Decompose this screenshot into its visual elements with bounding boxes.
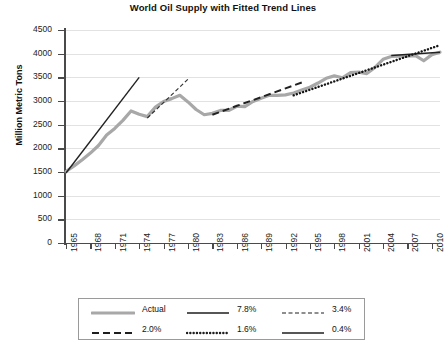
legend-label: 3.4% <box>332 304 351 314</box>
series-line-actual <box>66 52 440 171</box>
legend-item-16[interactable]: 1.6% <box>174 324 269 334</box>
y-tick-label: 0 <box>18 238 52 247</box>
chart-legend: Actual7.8%3.4%2.0%1.6%0.4% <box>78 298 365 340</box>
legend-swatch <box>91 304 135 314</box>
legend-item-04[interactable]: 0.4% <box>269 324 364 334</box>
legend-item-actual[interactable]: Actual <box>79 304 174 314</box>
y-tick-label: 3000 <box>18 96 52 105</box>
y-tick-label: 1500 <box>18 167 52 176</box>
legend-swatch-line <box>91 308 135 318</box>
legend-item-78[interactable]: 7.8% <box>174 304 269 314</box>
legend-swatch <box>281 304 325 314</box>
y-tick-label: 3500 <box>18 72 52 81</box>
chart-title: World Oil Supply with Fitted Trend Lines <box>0 2 446 13</box>
legend-swatch-line <box>281 308 325 318</box>
legend-row: Actual7.8%3.4% <box>79 299 364 319</box>
legend-label: 0.4% <box>332 324 351 334</box>
legend-swatch <box>186 304 230 314</box>
legend-swatch-line <box>186 328 230 338</box>
legend-label: 1.6% <box>237 324 256 334</box>
legend-swatch-line <box>281 328 325 338</box>
legend-swatch <box>91 324 135 334</box>
y-tick-label: 4500 <box>18 25 52 34</box>
legend-label: 7.8% <box>237 304 256 314</box>
legend-swatch <box>281 324 325 334</box>
chart-container: World Oil Supply with Fitted Trend Lines… <box>0 0 446 355</box>
y-tick-label: 2000 <box>18 143 52 152</box>
series-line-16 <box>294 45 440 95</box>
series-line-78 <box>66 77 139 173</box>
y-tick-label: 2500 <box>18 120 52 129</box>
series-layer <box>66 30 440 243</box>
legend-label: Actual <box>142 304 166 314</box>
legend-item-34[interactable]: 3.4% <box>269 304 364 314</box>
legend-swatch-line <box>186 308 230 318</box>
series-line-20 <box>212 83 301 115</box>
legend-swatch-line <box>91 328 135 338</box>
legend-item-20[interactable]: 2.0% <box>79 324 174 334</box>
legend-row: 2.0%1.6%0.4% <box>79 319 364 339</box>
y-tick-label: 1000 <box>18 191 52 200</box>
legend-swatch <box>186 324 230 334</box>
y-tick-label: 500 <box>18 214 52 223</box>
x-axis-line <box>64 243 440 244</box>
legend-label: 2.0% <box>142 324 161 334</box>
y-tick-label: 4000 <box>18 49 52 58</box>
